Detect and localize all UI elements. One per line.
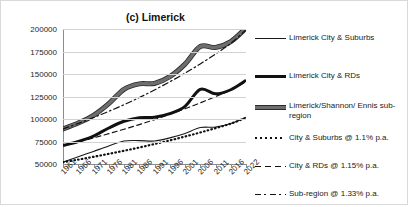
legend-item[interactable]: Limerick City & Suburbs: [253, 33, 403, 45]
gridlines: [63, 29, 246, 164]
legend-line-swatch-icon: [253, 133, 286, 145]
gridline: [63, 142, 246, 143]
legend-line-swatch-icon: [253, 71, 286, 83]
y-axis-tick-label: 75000: [35, 137, 57, 146]
legend-item-label: Limerick City & RDs: [289, 71, 360, 81]
y-axis-tick-label: 150000: [30, 70, 57, 79]
gridline: [63, 29, 246, 30]
y-axis-tick-label: 100000: [30, 115, 57, 124]
y-axis-tick-label: 175000: [30, 47, 57, 56]
legend-item-label: Sub-region @ 1.33% p.a.: [289, 189, 379, 199]
chart-legend: Limerick City & SuburbsLimerick City & R…: [253, 21, 403, 203]
gridline: [63, 52, 246, 53]
gridline: [63, 119, 246, 120]
legend-line-swatch-icon: [253, 33, 286, 45]
gridline: [63, 74, 246, 75]
legend-item-label: Limerick City & Suburbs: [289, 33, 374, 43]
legend-item[interactable]: City & Suburbs @ 1.1% p.a.: [253, 133, 403, 145]
legend-line-swatch-icon: [253, 189, 286, 201]
legend-line-swatch-icon: [253, 101, 286, 113]
legend-item-label: City & RDs @ 1.15% p.a.: [289, 161, 379, 171]
legend-item[interactable]: Limerick City & RDs: [253, 71, 403, 83]
y-axis-tick-label: 200000: [30, 25, 57, 34]
chart-title: (c) Limerick: [63, 11, 248, 23]
y-axis-tick-label: 50000: [35, 160, 57, 169]
gridline: [63, 97, 246, 98]
legend-line-swatch-icon: [253, 161, 286, 173]
legend-item[interactable]: City & RDs @ 1.15% p.a.: [253, 161, 403, 173]
x-axis-tick-labels: 1961196619711976198119861991199620012006…: [63, 170, 263, 206]
y-axis-tick-label: 125000: [30, 92, 57, 101]
legend-item[interactable]: Limerick/Shannon/ Ennis sub-region: [253, 101, 403, 121]
chart-container: (c) Limerick 200000175000150000125000100…: [0, 0, 408, 205]
y-axis-tick-labels: 2000001750001500001250001000007500050000: [1, 29, 57, 165]
legend-item-label: Limerick/Shannon/ Ennis sub-region: [289, 101, 403, 121]
legend-item[interactable]: Sub-region @ 1.33% p.a.: [253, 189, 403, 201]
plot-area: [63, 29, 246, 164]
legend-item-label: City & Suburbs @ 1.1% p.a.: [289, 133, 389, 143]
